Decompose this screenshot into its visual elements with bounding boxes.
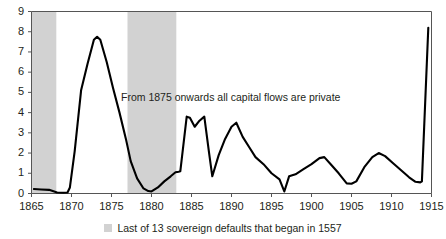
legend-swatch-icon [104, 224, 112, 232]
y-axis-label-5: 5 [8, 86, 24, 97]
x-axis-label-1905: 1905 [332, 201, 372, 212]
x-axis-label-1910: 1910 [372, 201, 412, 212]
legend-label: Last of 13 sovereign defaults that began… [117, 222, 341, 234]
y-axis-label-3: 3 [8, 127, 24, 138]
x-axis-label-1900: 1900 [292, 201, 332, 212]
x-axis-label-1880: 1880 [132, 201, 172, 212]
tick-marks-group [28, 12, 432, 198]
data-series-group [34, 28, 428, 193]
chart-annotation: From 1875 onwards all capital flows are … [121, 91, 340, 103]
chart-legend: Last of 13 sovereign defaults that began… [0, 222, 446, 234]
y-axis-label-2: 2 [8, 147, 24, 158]
y-axis-label-1: 1 [8, 167, 24, 178]
default-band-1 [32, 12, 57, 194]
chart-container: 9876543210 18651870187518801885189018951… [0, 0, 446, 239]
x-axis-label-1885: 1885 [172, 201, 212, 212]
y-axis-label-6: 6 [8, 66, 24, 77]
y-axis-label-9: 9 [8, 6, 24, 17]
y-axis-label-8: 8 [8, 26, 24, 37]
y-axis-label-0: 0 [8, 188, 24, 199]
y-axis-label-7: 7 [8, 46, 24, 57]
x-axis-label-1875: 1875 [92, 201, 132, 212]
series-line-capital-flows [34, 28, 428, 193]
x-axis-label-1915: 1915 [412, 201, 446, 212]
x-axis-label-1865: 1865 [12, 201, 52, 212]
x-axis-label-1890: 1890 [212, 201, 252, 212]
x-axis-label-1870: 1870 [52, 201, 92, 212]
y-axis-label-4: 4 [8, 107, 24, 118]
x-axis-label-1895: 1895 [252, 201, 292, 212]
